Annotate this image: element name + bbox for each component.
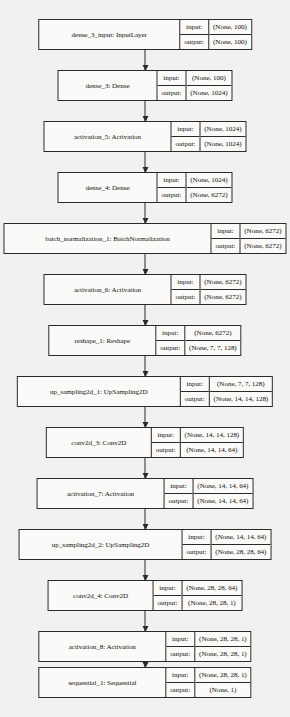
io-label-column: input:output:: [180, 20, 209, 49]
edge-connector: [145, 254, 146, 274]
layer-node[interactable]: dense_4: Denseinput:output:(None, 1024)(…: [58, 172, 233, 203]
output-shape: (None, 1024): [200, 137, 245, 152]
input-label: input:: [158, 173, 186, 188]
io-label-column: input:output:: [154, 581, 183, 610]
layer-node[interactable]: dense_3: Denseinput:output:(None, 100)(N…: [58, 70, 233, 101]
layer-name: activation_6: Activation: [45, 275, 172, 304]
io-label-column: input:output:: [183, 530, 212, 559]
edge-connector: [145, 50, 146, 70]
input-label: input:: [156, 326, 184, 341]
output-label: output:: [172, 290, 200, 305]
output-label: output:: [158, 86, 186, 101]
layer-name: up_sampling2d_1: UpSampling2D: [18, 377, 181, 406]
input-shape: (None, 6272): [185, 326, 241, 341]
shape-column: (None, 1024)(None, 1024): [200, 122, 245, 151]
layer-name: dense_3_input: InputLayer: [39, 20, 180, 49]
layer-node[interactable]: activation_6: Activationinput:output:(No…: [44, 274, 247, 305]
output-label: output:: [152, 443, 180, 458]
output-shape: (None, 14, 14, 64): [181, 443, 244, 458]
input-shape: (None, 28, 28, 64): [182, 581, 241, 596]
edge-connector: [145, 101, 146, 121]
edge-connector: [145, 203, 146, 223]
io-label-column: input:output:: [156, 326, 185, 355]
layer-node[interactable]: conv2d_4: Conv2Dinput:output:(None, 28, …: [48, 580, 243, 611]
io-label-column: input:output:: [165, 479, 194, 508]
io-label-column: input:output:: [166, 668, 195, 697]
output-label: output:: [166, 683, 194, 698]
io-label-column: input:output:: [158, 71, 187, 100]
io-label-column: input:output:: [172, 275, 201, 304]
output-shape: (None, 100): [209, 35, 251, 50]
input-label: input:: [158, 71, 186, 86]
output-shape: (None, 28, 28, 1): [182, 596, 241, 611]
input-label: input:: [152, 428, 180, 443]
input-shape: (None, 6272): [200, 275, 245, 290]
shape-column: (None, 14, 14, 64)(None, 14, 14, 64): [193, 479, 252, 508]
input-label: input:: [212, 224, 240, 239]
layer-node[interactable]: dense_3_input: InputLayerinput:output:(N…: [38, 19, 252, 50]
input-shape: (None, 28, 28, 1): [195, 632, 251, 647]
shape-column: (None, 14, 14, 128)(None, 14, 14, 64): [181, 428, 244, 457]
output-label: output:: [183, 545, 211, 560]
output-shape: (None, 6272): [200, 290, 245, 305]
shape-column: (None, 6272)(None, 6272): [200, 275, 245, 304]
edge-connector: [145, 152, 146, 172]
output-label: output:: [181, 392, 209, 407]
layer-name: dense_4: Dense: [59, 173, 158, 202]
input-label: input:: [181, 377, 209, 392]
shape-column: (None, 28, 28, 1)(None, 28, 28, 1): [195, 632, 251, 661]
output-label: output:: [172, 137, 200, 152]
input-shape: (None, 14, 14, 64): [193, 479, 252, 494]
shape-column: (None, 6272)(None, 7, 7, 128): [185, 326, 241, 355]
edge-connector: [145, 611, 146, 631]
edge-connector: [145, 305, 146, 325]
output-shape: (None, 7, 7, 128): [185, 341, 241, 356]
layer-node[interactable]: up_sampling2d_1: UpSampling2Dinput:outpu…: [17, 376, 273, 407]
model-graph: dense_3_input: InputLayerinput:output:(N…: [0, 0, 290, 717]
layer-name: conv2d_4: Conv2D: [49, 581, 154, 610]
layer-node[interactable]: activation_8: Activationinput:output:(No…: [38, 631, 251, 662]
input-label: input:: [172, 275, 200, 290]
layer-name: batch_normalization_1: BatchNormalizatio…: [5, 224, 212, 253]
io-label-column: input:output:: [166, 632, 195, 661]
input-shape: (None, 28, 28, 1): [195, 668, 251, 683]
shape-column: (None, 6272)(None, 6272): [240, 224, 285, 253]
input-shape: (None, 14, 14, 128): [181, 428, 244, 443]
layer-name: reshape_1: Reshape: [49, 326, 156, 355]
input-label: input:: [166, 668, 194, 683]
input-shape: (None, 1024): [186, 173, 231, 188]
shape-column: (None, 100)(None, 100): [209, 20, 251, 49]
output-shape: (None, 6272): [186, 188, 231, 203]
input-shape: (None, 100): [186, 71, 231, 86]
input-shape: (None, 6272): [240, 224, 285, 239]
input-label: input:: [154, 581, 182, 596]
output-shape: (None, 14, 14, 128): [210, 392, 273, 407]
input-label: input:: [165, 479, 193, 494]
io-label-column: input:output:: [181, 377, 210, 406]
layer-node[interactable]: sequential_1: Sequentialinput:output:(No…: [38, 667, 251, 698]
layer-node[interactable]: reshape_1: Reshapeinput:output:(None, 62…: [48, 325, 241, 356]
input-shape: (None, 1024): [200, 122, 245, 137]
output-shape: (None, 6272): [240, 239, 285, 254]
layer-name: activation_7: Activation: [38, 479, 165, 508]
output-shape: (None, 28, 28, 64): [211, 545, 270, 560]
shape-column: (None, 100)(None, 1024): [186, 71, 231, 100]
output-label: output:: [154, 596, 182, 611]
shape-column: (None, 7, 7, 128)(None, 14, 14, 128): [210, 377, 273, 406]
layer-node[interactable]: activation_5: Activationinput:output:(No…: [44, 121, 247, 152]
layer-node[interactable]: batch_normalization_1: BatchNormalizatio…: [4, 223, 287, 254]
shape-column: (None, 28, 28, 1)(None, 1): [195, 668, 251, 697]
shape-column: (None, 14, 14, 64)(None, 28, 28, 64): [211, 530, 270, 559]
output-label: output:: [212, 239, 240, 254]
layer-node[interactable]: up_sampling2d_2: UpSampling2Dinput:outpu…: [19, 529, 272, 560]
layer-name: conv2d_3: Conv2D: [47, 428, 152, 457]
output-shape: (None, 28, 28, 1): [195, 647, 251, 662]
output-shape: (None, 1024): [186, 86, 231, 101]
layer-node[interactable]: activation_7: Activationinput:output:(No…: [37, 478, 254, 509]
input-shape: (None, 100): [209, 20, 251, 35]
edge-connector: [145, 509, 146, 529]
input-shape: (None, 7, 7, 128): [210, 377, 273, 392]
input-shape: (None, 14, 14, 64): [211, 530, 270, 545]
io-label-column: input:output:: [158, 173, 187, 202]
layer-node[interactable]: conv2d_3: Conv2Dinput:output:(None, 14, …: [46, 427, 244, 458]
